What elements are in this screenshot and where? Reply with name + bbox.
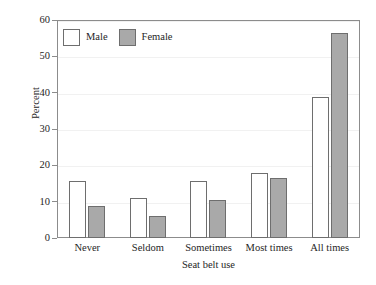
bar-group bbox=[299, 20, 360, 238]
x-axis-tick-label: All times bbox=[299, 241, 360, 255]
bars-layer bbox=[57, 20, 360, 238]
bar-female-seldom bbox=[149, 216, 166, 238]
bar-female-never bbox=[88, 206, 105, 238]
legend-entry-male: Male bbox=[63, 29, 108, 46]
legend-entry-female: Female bbox=[119, 29, 173, 46]
bar-chart: Percent 0102030405060 MaleFemale NeverSe… bbox=[0, 0, 376, 285]
legend-swatch-female bbox=[119, 29, 136, 46]
y-axis-tick-label: 10 bbox=[40, 196, 51, 208]
x-axis-tick-label: Seldom bbox=[118, 241, 179, 255]
bar-male-seldom bbox=[130, 198, 147, 238]
bar-group bbox=[239, 20, 300, 238]
y-axis-ticks: 0102030405060 bbox=[0, 0, 57, 285]
y-axis-tick-label: 0 bbox=[45, 232, 50, 244]
y-axis-tick-label: 30 bbox=[40, 123, 51, 135]
legend-swatch-male bbox=[63, 29, 80, 46]
bar-male-all-times bbox=[312, 97, 329, 238]
x-axis-tick-label: Never bbox=[57, 241, 118, 255]
x-axis-tick-label: Most times bbox=[239, 241, 300, 255]
bar-group bbox=[57, 20, 118, 238]
legend: MaleFemale bbox=[61, 24, 174, 50]
x-axis-tick-labels: NeverSeldomSometimesMost timesAll times bbox=[57, 241, 360, 257]
bar-group bbox=[178, 20, 239, 238]
bar-female-all-times bbox=[331, 33, 348, 238]
x-axis-tick-label: Sometimes bbox=[178, 241, 239, 255]
bar-female-sometimes bbox=[209, 200, 226, 239]
y-axis-tick-label: 20 bbox=[40, 159, 51, 171]
y-axis-tick-label: 40 bbox=[40, 87, 51, 99]
bar-male-most-times bbox=[251, 173, 268, 238]
bar-group bbox=[118, 20, 179, 238]
y-axis-tick-label: 60 bbox=[40, 14, 51, 26]
legend-label: Male bbox=[86, 31, 108, 43]
bar-male-sometimes bbox=[190, 181, 207, 238]
legend-label: Female bbox=[142, 31, 173, 43]
bar-male-never bbox=[69, 181, 86, 238]
x-axis-title: Seat belt use bbox=[57, 259, 360, 270]
bar-female-most-times bbox=[270, 178, 287, 238]
y-axis-tick-label: 50 bbox=[40, 50, 51, 62]
